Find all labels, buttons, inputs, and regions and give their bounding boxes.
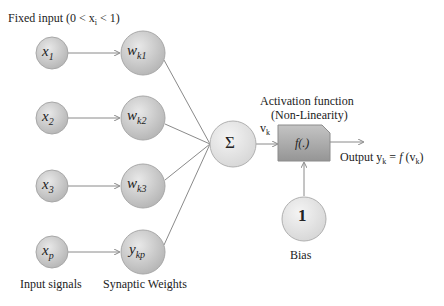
weight-ykp: ykp: [129, 241, 145, 260]
weight-nodes: [121, 31, 165, 274]
bias-value: 1: [298, 206, 307, 226]
weight-wk3: wk3: [127, 175, 146, 194]
input-xp: xp: [42, 242, 54, 261]
input-signals-label: Input signals: [20, 277, 82, 292]
input-x1: x1: [42, 43, 54, 62]
input-arrows: [68, 53, 119, 252]
input-x2: x2: [42, 108, 54, 127]
activation-label: Activation function: [260, 94, 354, 109]
input-x3: x3: [42, 176, 54, 195]
summation-symbol: Σ: [225, 133, 235, 153]
synaptic-weights-label: Synaptic Weights: [103, 277, 187, 292]
weight-wk1: wk1: [127, 42, 146, 61]
vk-label: vk: [260, 121, 270, 137]
output-label: Output yk = f (vk): [340, 150, 423, 166]
activation-symbol: f(.): [295, 136, 309, 151]
nonlinearity-label: (Non-Linearity): [271, 108, 348, 123]
weight-wk2: wk2: [127, 107, 146, 126]
weight-lines: [164, 60, 363, 245]
bias-label: Bias: [290, 248, 311, 263]
diagram-title: Fixed input (0 < xi < 1): [8, 11, 120, 27]
input-nodes: [36, 37, 68, 268]
